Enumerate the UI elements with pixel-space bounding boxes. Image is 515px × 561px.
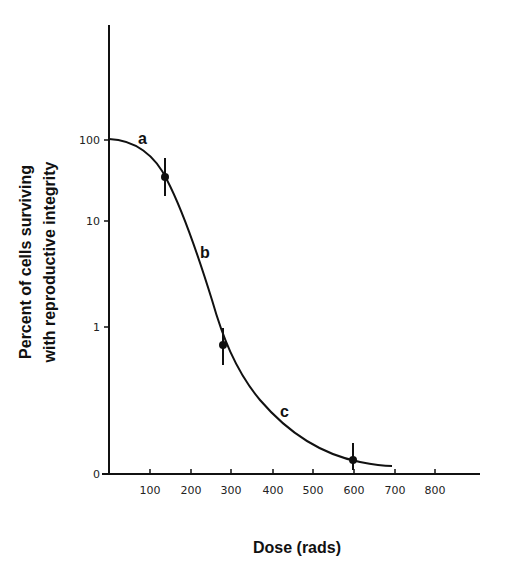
y-axis-title-line-2: with reproductive integrity <box>41 161 58 363</box>
region-label-b: b <box>200 244 210 261</box>
svg-text:1: 1 <box>93 321 100 334</box>
survival-curve <box>109 139 392 466</box>
svg-text:0: 0 <box>93 468 100 481</box>
svg-text:100: 100 <box>140 484 161 497</box>
svg-text:500: 500 <box>303 484 324 497</box>
svg-text:10: 10 <box>86 215 100 228</box>
survival-curve-chart: 100 10 1 0 100 200 300 400 500 600 700 8… <box>0 0 515 561</box>
y-axis-title-line-1: Percent of cells surviving <box>17 165 34 359</box>
svg-text:800: 800 <box>425 484 446 497</box>
svg-text:600: 600 <box>344 484 365 497</box>
svg-text:100: 100 <box>79 134 100 147</box>
x-axis-title: Dose (rads) <box>253 539 341 556</box>
region-label-a: a <box>138 130 147 147</box>
x-tick-labels: 100 200 300 400 500 600 700 800 <box>140 484 446 497</box>
svg-text:400: 400 <box>263 484 284 497</box>
svg-text:700: 700 <box>385 484 406 497</box>
region-label-c: c <box>280 403 289 420</box>
svg-text:200: 200 <box>181 484 202 497</box>
data-point-3 <box>349 443 357 470</box>
y-tick-labels: 100 10 1 0 <box>79 134 100 481</box>
data-point-1 <box>161 158 169 196</box>
svg-text:300: 300 <box>221 484 242 497</box>
data-point-2 <box>219 328 227 365</box>
